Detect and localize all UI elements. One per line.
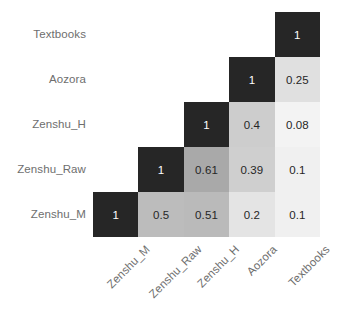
x-axis-tick-label: Zenshu_Raw [147,243,204,300]
correlation-heatmap-figure: TextbooksAozoraZenshu_HZenshu_RawZenshu_… [0,0,340,330]
heatmap-cell: 0.1 [275,147,320,192]
heatmap-cell: 1 [229,57,274,102]
heatmap-cell: 0.2 [229,192,274,237]
x-axis-tick-zenshu-raw: Zenshu_Raw [138,237,183,249]
heatmap-cell: 1 [184,102,229,147]
heatmap-cell: 0.61 [184,147,229,192]
heatmap-cell: 1 [138,147,183,192]
x-axis-tick-textbooks: Textbooks [275,237,320,249]
x-axis-tick-labels: Zenshu_MZenshu_RawZenshu_HAozoraTextbook… [93,237,320,330]
heatmap-cell: 0.4 [229,102,274,147]
y-axis-tick-zenshu-h: Zenshu_H [0,102,86,147]
heatmap-cell: 1 [93,192,138,237]
y-axis-tick-zenshu-raw: Zenshu_Raw [0,147,86,192]
x-axis-tick-label: Zenshu_M [104,243,151,290]
heatmap-cell: 0.25 [275,57,320,102]
heatmap-cell: 1 [275,12,320,57]
heatmap-cell: 0.08 [275,102,320,147]
heatmap-grid: 110.2510.40.0810.610.390.110.50.510.20.1 [93,12,320,237]
y-axis-tick-aozora: Aozora [0,57,86,102]
heatmap-cell: 0.1 [275,192,320,237]
y-axis-tick-textbooks: Textbooks [0,12,86,57]
heatmap-cell: 0.39 [229,147,274,192]
heatmap-cell: 0.51 [184,192,229,237]
x-axis-tick-zenshu-h: Zenshu_H [184,237,229,249]
y-axis-tick-zenshu-m: Zenshu_M [0,192,86,237]
y-axis-tick-labels: TextbooksAozoraZenshu_HZenshu_RawZenshu_… [0,12,86,237]
x-axis-tick-label: Textbooks [286,243,332,289]
x-axis-tick-aozora: Aozora [229,237,274,249]
x-axis-tick-zenshu-m: Zenshu_M [93,237,138,249]
heatmap-cell: 0.5 [138,192,183,237]
